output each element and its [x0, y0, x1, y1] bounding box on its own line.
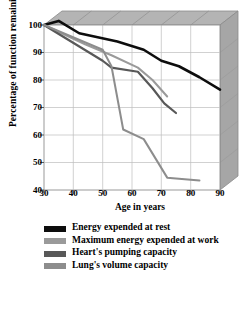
x-tick-50: 50	[93, 188, 113, 198]
legend-label-energy-at-rest: Energy expended at rest	[72, 222, 170, 234]
legend-swatch-lung-volume	[44, 263, 66, 269]
x-tick-70: 70	[151, 188, 171, 198]
y-tick-60: 60	[18, 131, 42, 140]
legend-swatch-max-energy-at-work	[44, 238, 66, 244]
legend-item-energy-at-rest: Energy expended at rest	[0, 222, 251, 234]
chart-figure: 100 90 80 70 60 50 40 30 40 50 60 70 80 …	[0, 0, 251, 320]
x-tick-30: 30	[34, 188, 54, 198]
legend-label-max-energy-at-work: Maximum energy expended at work	[72, 235, 219, 247]
y-tick-100: 100	[18, 21, 42, 30]
y-axis-title: Percentage of function remaining	[8, 0, 18, 133]
legend-swatch-energy-at-rest	[44, 226, 66, 232]
y-tick-90: 90	[18, 48, 42, 57]
legend-label-lung-volume: Lung's volume capacity	[72, 260, 168, 272]
x-tick-40: 40	[63, 188, 83, 198]
x-axis-tick-labels: 30 40 50 60 70 80 90	[0, 188, 251, 202]
x-tick-90: 90	[210, 188, 230, 198]
legend-swatch-heart-pumping	[44, 251, 66, 257]
x-tick-80: 80	[181, 188, 201, 198]
x-axis-title: Age in years	[40, 202, 240, 212]
x-tick-60: 60	[122, 188, 142, 198]
y-axis-tick-labels: 100 90 80 70 60 50 40	[18, 0, 42, 215]
legend-item-lung-volume: Lung's volume capacity	[0, 260, 251, 272]
y-tick-50: 50	[18, 158, 42, 167]
legend-item-max-energy-at-work: Maximum energy expended at work	[0, 235, 251, 247]
y-tick-80: 80	[18, 76, 42, 85]
chart-plot-region: 100 90 80 70 60 50 40 30 40 50 60 70 80 …	[0, 0, 251, 215]
legend-label-heart-pumping: Heart's pumping capacity	[72, 247, 177, 259]
y-tick-70: 70	[18, 103, 42, 112]
legend-item-heart-pumping: Heart's pumping capacity	[0, 247, 251, 259]
chart-legend: Energy expended at rest Maximum energy e…	[0, 222, 251, 320]
